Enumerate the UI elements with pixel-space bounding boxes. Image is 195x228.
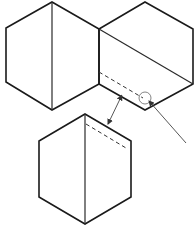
hexagon-top-left (6, 2, 99, 110)
fold-line-diagonal (99, 29, 193, 84)
dashed-fold-line (99, 72, 143, 98)
detail-circle-marker (139, 92, 151, 104)
diagram-canvas (0, 0, 195, 228)
dashed-fold-line (86, 124, 126, 148)
double-arrow-icon (108, 99, 120, 124)
hexagon-top-right (99, 2, 193, 110)
hexagon-bottom (39, 114, 131, 224)
pointer-arrow (149, 101, 186, 143)
